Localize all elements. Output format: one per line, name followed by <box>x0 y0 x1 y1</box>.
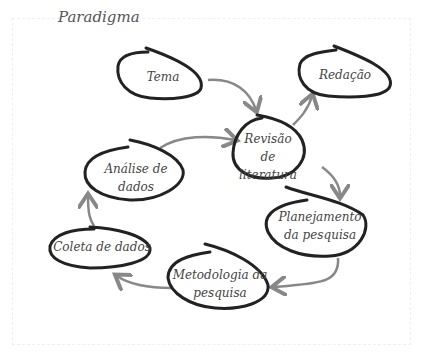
edge-metodologia-coleta <box>117 276 172 288</box>
node-tema: Tema <box>128 68 198 86</box>
node-coleta: Coleta de dados <box>52 238 152 256</box>
node-redacao: Redação <box>310 66 380 84</box>
edge-analise-revisao <box>160 137 235 148</box>
edge-revisao-planejamento <box>322 167 340 196</box>
node-analise: Análise de dados <box>96 160 176 196</box>
edge-planejamento-metodologia <box>274 258 338 287</box>
edge-revisao-redacao <box>293 96 312 125</box>
node-metodologia: Metodologia da pesquisa <box>172 266 268 302</box>
diagram-canvas <box>0 0 439 358</box>
node-planejamento: Planejamento da pesquisa <box>272 208 368 244</box>
edge-tema-revisao <box>208 80 256 110</box>
node-revisao: Revisão de literatura <box>236 130 300 184</box>
edge-coleta-analise <box>88 196 94 226</box>
